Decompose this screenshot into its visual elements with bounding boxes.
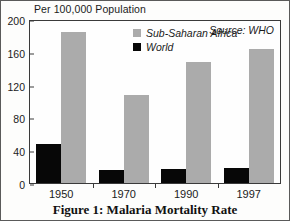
legend-swatch-icon [133,29,141,37]
figure-caption: Figure 1: Malaria Mortality Rate [1,202,289,218]
legend-item: World [133,41,237,53]
bar-group: 1950 [30,21,93,183]
x-axis-tick-label: 1950 [30,188,93,200]
bar-africa [61,32,86,183]
y-axis-tick-mark [30,185,34,186]
axis-title: Per 100,000 Population [34,3,146,15]
legend-item-label: World [146,41,173,53]
bar-world [161,169,186,183]
x-axis-tick-label: 1997 [218,188,281,200]
y-axis-tick-label: 0 [19,179,30,191]
x-axis-tick-label: 1970 [93,188,156,200]
bar-africa [124,95,149,183]
y-axis-tick-label: 80 [13,113,30,125]
bar-africa [186,62,211,183]
bar-world [224,168,249,183]
y-axis-tick-label: 200 [7,15,30,27]
y-axis-tick-label: 40 [13,146,30,158]
plot-area: 04080120160200 1950197019901997 Sub-Saha… [29,20,281,184]
figure-malaria-mortality-rate: Per 100,000 Population 04080120160200 19… [0,0,290,221]
bar-world [36,144,61,183]
bar-world [99,170,124,183]
y-axis-tick-label: 160 [7,48,30,60]
bar-africa [249,49,274,183]
source-note: Source: WHO [209,24,274,36]
legend-swatch-icon [133,43,141,51]
y-axis-tick-label: 120 [7,81,30,93]
x-axis-tick-label: 1990 [155,188,218,200]
